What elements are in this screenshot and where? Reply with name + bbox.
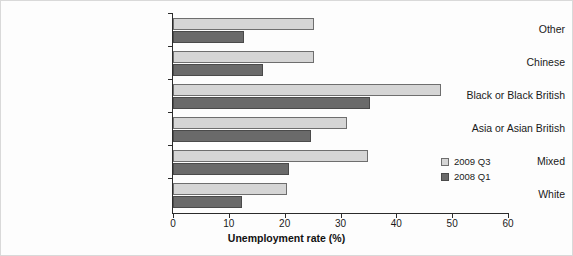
legend-label: 2008 Q1: [454, 171, 490, 182]
bar: [173, 150, 368, 162]
x-axis-tick-label: 30: [335, 218, 346, 229]
x-axis-tick-label: 60: [502, 218, 513, 229]
y-axis-line: [172, 13, 173, 214]
x-axis-tick-label: 0: [170, 218, 176, 229]
x-axis-tick-label: 50: [447, 218, 458, 229]
legend-label: 2009 Q3: [454, 156, 490, 167]
y-axis-category-label: Asia or Asian British: [408, 122, 572, 134]
y-axis-category-label: Other: [408, 23, 572, 35]
bar: [173, 97, 370, 109]
y-axis-tick: [168, 145, 173, 146]
x-axis-tick-label: 20: [279, 218, 290, 229]
bar: [173, 64, 263, 76]
y-axis-category-label: Black or Black British: [408, 89, 572, 101]
x-axis-tick-label: 40: [391, 218, 402, 229]
y-axis-category-label: White: [408, 188, 572, 200]
x-axis-title: Unemployment rate (%): [1, 232, 572, 244]
y-axis-tick: [168, 112, 173, 113]
bar: [173, 31, 244, 43]
x-axis-tick-label: 10: [223, 218, 234, 229]
bar: [173, 117, 347, 129]
bar: [173, 130, 311, 142]
bar: [173, 18, 314, 30]
bar: [173, 163, 289, 175]
y-axis-tick: [168, 13, 173, 14]
chart-legend: 2009 Q3 2008 Q1: [441, 156, 490, 186]
legend-swatch-icon: [441, 173, 449, 181]
bar: [173, 196, 242, 208]
y-axis-tick: [168, 46, 173, 47]
bar: [173, 84, 441, 96]
y-axis-tick: [168, 79, 173, 80]
chart-figure: OtherChineseBlack or Black BritishAsia o…: [0, 0, 573, 256]
bar: [173, 183, 287, 195]
bar: [173, 51, 314, 63]
legend-item-2009-q3: 2009 Q3: [441, 156, 490, 167]
legend-item-2008-q1: 2008 Q1: [441, 171, 490, 182]
y-axis-category-label: Chinese: [408, 56, 572, 68]
y-axis-tick: [168, 178, 173, 179]
legend-swatch-icon: [441, 158, 449, 166]
